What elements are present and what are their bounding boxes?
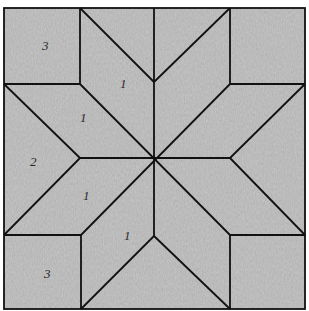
label-left-upper-diamond: 1	[80, 110, 87, 125]
label-bottom-left-square: 3	[43, 266, 51, 281]
label-top-left-square: 3	[41, 38, 49, 53]
label-lower-diamond: 1	[124, 228, 131, 243]
quilt-block-diagram: 3 1 1 2 1 1 3	[0, 0, 309, 311]
label-upper-diamond: 1	[120, 76, 127, 91]
label-left-triangle: 2	[30, 154, 37, 169]
label-left-lower-diamond: 1	[83, 188, 90, 203]
